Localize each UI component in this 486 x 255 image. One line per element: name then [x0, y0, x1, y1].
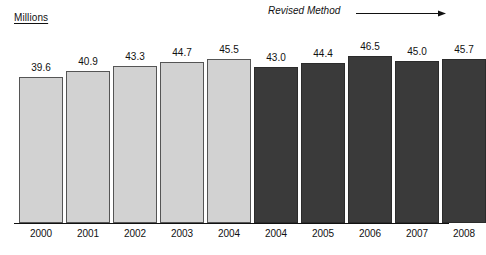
- x-axis-tick-label: 2001: [66, 228, 110, 240]
- bar: [254, 67, 298, 223]
- bar-value-label: 46.5: [348, 41, 392, 52]
- x-axis-tick-label: 2004: [254, 228, 298, 240]
- bar: [66, 71, 110, 223]
- bar-value-label: 45.0: [395, 46, 439, 57]
- bar-value-label: 39.6: [19, 62, 63, 73]
- bar-value-label: 44.7: [160, 47, 204, 58]
- x-axis-baseline: [14, 223, 449, 224]
- x-axis-tick-label: 2003: [160, 228, 204, 240]
- x-axis-tick-label: 2006: [348, 228, 392, 240]
- bar: [395, 61, 439, 223]
- x-axis-tick-label: 2002: [113, 228, 157, 240]
- x-axis-tick-label: 2000: [19, 228, 63, 240]
- bar-value-label: 43.0: [254, 52, 298, 63]
- bar: [207, 59, 251, 223]
- x-axis-tick-label: 2007: [395, 228, 439, 240]
- bar-value-label: 40.9: [66, 56, 110, 67]
- plot-area: 39.640.943.344.745.543.044.446.545.045.7: [0, 0, 449, 224]
- x-axis-tick-label: 2005: [301, 228, 345, 240]
- bar: [301, 63, 345, 223]
- bar: [160, 62, 204, 223]
- bar: [19, 77, 63, 223]
- bar-value-label: 45.5: [207, 44, 251, 55]
- bar-value-label: 44.4: [301, 48, 345, 59]
- bar: [113, 66, 157, 223]
- x-axis-tick-label: 2008: [442, 228, 486, 240]
- bar: [442, 59, 486, 223]
- bar-value-label: 43.3: [113, 51, 157, 62]
- bar: [348, 56, 392, 223]
- bar-value-label: 45.7: [442, 44, 486, 55]
- x-axis-tick-label: 2004: [207, 228, 251, 240]
